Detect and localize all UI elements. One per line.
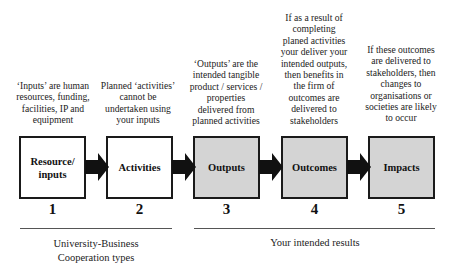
description-inputs: ‘Inputs’ are human resources, funding, f… — [14, 80, 92, 126]
step-number: 2 — [106, 201, 173, 218]
description-impacts: If these outcomes are delivered to stake… — [365, 44, 437, 124]
arrow-right-icon — [347, 153, 371, 181]
description-outputs: ‘Outputs’ are the intended tangible prod… — [188, 58, 264, 126]
arrow-right-icon — [172, 153, 196, 181]
step-number: 1 — [19, 201, 86, 218]
arrow-right-icon — [85, 153, 109, 181]
arrow-right-icon — [259, 153, 283, 181]
step-label: Outcomes — [292, 161, 337, 174]
step-box-outputs: Outputs — [193, 136, 260, 199]
step-label: Resource/ inputs — [21, 155, 84, 181]
step-box-activities: Activities — [106, 136, 173, 199]
step-box-impacts: Impacts — [368, 136, 435, 199]
step-label: Impacts — [383, 161, 419, 174]
group-divider-results — [194, 228, 435, 229]
step-number: 3 — [193, 201, 260, 218]
group-label-intended-results: Your intended results — [240, 236, 390, 250]
step-number: 5 — [368, 201, 435, 218]
description-outcomes: If as a result of completing planed acti… — [279, 12, 349, 126]
step-box-resource-inputs: Resource/ inputs — [19, 136, 86, 199]
step-label: Activities — [119, 161, 161, 174]
step-box-outcomes: Outcomes — [281, 136, 348, 199]
step-label: Outputs — [208, 161, 245, 174]
step-number: 4 — [281, 201, 348, 218]
description-activities: Planned ‘activities’ cannot be undertake… — [100, 80, 176, 126]
group-label-cooperation-types: University-Business Cooperation types — [40, 237, 152, 265]
group-divider-cooperation — [20, 228, 172, 229]
